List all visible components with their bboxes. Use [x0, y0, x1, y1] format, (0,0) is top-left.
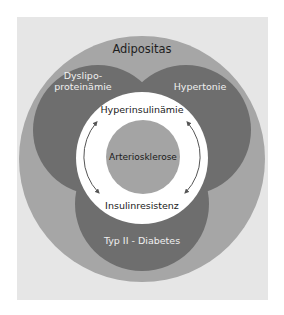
- arteriosklerose-label: Arteriosklerose: [96, 152, 190, 162]
- hypertonie-label: Hypertonie: [160, 82, 240, 93]
- adipositas-label: Adipositas: [92, 43, 192, 56]
- dyslipoproteinaemie-label: Dyslipo-proteinämie: [48, 71, 118, 93]
- insulinresistenz-label: Insulinresistenz: [92, 201, 192, 212]
- diabetes-label: Typ II - Diabetes: [92, 236, 192, 247]
- hyperinsulinaemie-label: Hyperinsulinämie: [92, 105, 192, 116]
